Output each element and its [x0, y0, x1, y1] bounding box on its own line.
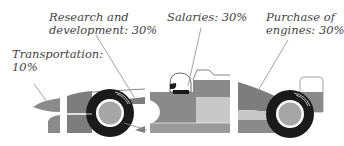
label-research-line2: development: 30%: [49, 24, 157, 37]
label-engines: Purchase of engines: 30%: [266, 11, 344, 37]
label-salaries: Salaries: 30%: [167, 11, 247, 24]
label-transportation: Transportation: 10%: [12, 48, 103, 74]
segment-salaries: [150, 70, 230, 133]
label-engines-line2: engines: 30%: [266, 24, 344, 37]
rear-wheel: [266, 90, 314, 138]
label-salaries-line1: Salaries: 30%: [167, 11, 247, 24]
segment-transportation: [33, 98, 60, 133]
leader-engines: [256, 40, 288, 94]
front-wheel: [86, 89, 134, 137]
label-transportation-line2: 10%: [12, 61, 103, 74]
label-research: Research and development: 30%: [49, 11, 157, 37]
